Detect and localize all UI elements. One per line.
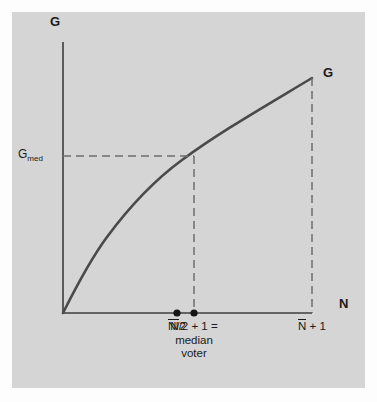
curve-endpoint-label: G	[323, 66, 333, 79]
y-axis-title: G	[50, 15, 60, 28]
point-marker-median-voter	[190, 309, 197, 316]
x-tick-label-median-voter: N/2 + 1 = median voter	[163, 320, 225, 361]
point-marker-n-half	[173, 309, 180, 316]
gmed-subscript: med	[27, 154, 43, 163]
x-axis-title: N	[339, 297, 348, 310]
median-voter-line1: N/2 + 1 =	[163, 320, 225, 334]
x-tick-label-n-plus-1: N + 1	[288, 320, 336, 334]
n-bar-glyph: N	[170, 320, 178, 334]
figure-root: G G N Gmed N/2 N/2 + 1 = median voter N …	[0, 0, 377, 402]
median-voter-line2: median	[163, 334, 225, 348]
n-plus-1-suffix: + 1	[306, 320, 326, 332]
gmed-base: G	[18, 147, 27, 161]
median-voter-suffix: /2 + 1 =	[179, 320, 218, 332]
n-bar-glyph: N	[298, 320, 306, 334]
median-voter-line3: voter	[163, 347, 225, 361]
curve-g-path	[63, 78, 312, 313]
y-tick-label-gmed: Gmed	[18, 148, 43, 163]
